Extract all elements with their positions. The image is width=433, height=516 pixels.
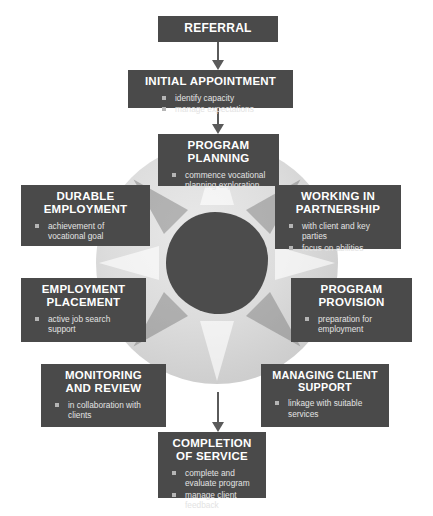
- list-item: active job search support: [35, 314, 138, 335]
- list-item: complete and evaluate program: [172, 468, 258, 489]
- list-item: with client and key parties: [289, 221, 393, 242]
- node-initial-appointment-title: INITIAL APPOINTMENT: [134, 75, 287, 88]
- list-item: linkage with suitable services: [275, 398, 381, 419]
- list-item: manage expectations: [162, 104, 285, 115]
- node-durable-employment[interactable]: DURABLE EMPLOYMENT achievement of vocati…: [21, 185, 150, 246]
- node-employment-placement-bullets: active job search support: [27, 314, 140, 335]
- node-program-provision-bullets: preparation for employment: [297, 314, 406, 335]
- node-program-provision[interactable]: PROGRAM PROVISION preparation for employ…: [291, 278, 412, 342]
- node-completion-of-service-bullets: complete and evaluate program manage cli…: [164, 468, 260, 511]
- node-program-provision-title: PROGRAM PROVISION: [297, 283, 406, 309]
- node-working-in-partnership[interactable]: WORKING IN PARTNERSHIP with client and k…: [275, 185, 401, 249]
- node-program-planning-bullets: commence vocational planning exploration: [164, 170, 273, 191]
- node-durable-employment-bullets: achievement of vocational goal: [27, 221, 144, 242]
- node-program-planning[interactable]: PROGRAM PLANNING commence vocational pla…: [158, 134, 279, 186]
- node-referral[interactable]: REFERRAL: [158, 16, 278, 42]
- node-completion-of-service-title: COMPLETION OF SERVICE: [164, 437, 260, 463]
- node-initial-appointment-bullets: identify capacity manage expectations: [134, 93, 287, 115]
- node-monitoring-and-review-bullets: in collaboration with clients: [47, 400, 160, 421]
- diagram-canvas: REFERRAL INITIAL APPOINTMENT identify ca…: [0, 0, 433, 516]
- list-item: focus on abilities: [289, 243, 393, 254]
- arrow-referral-to-initial-appointment: [217, 42, 219, 61]
- list-item: preparation for employment: [305, 314, 404, 335]
- node-completion-of-service[interactable]: COMPLETION OF SERVICE complete and evalu…: [158, 432, 266, 498]
- node-monitoring-and-review-title: MONITORING AND REVIEW: [47, 369, 160, 395]
- node-monitoring-and-review[interactable]: MONITORING AND REVIEW in collaboration w…: [41, 364, 166, 427]
- list-item: achievement of vocational goal: [35, 221, 142, 242]
- node-employment-placement-title: EMPLOYMENT PLACEMENT: [27, 283, 140, 309]
- node-working-in-partnership-title: WORKING IN PARTNERSHIP: [281, 190, 395, 216]
- node-managing-client-support-title: MANAGING CLIENT SUPPORT: [267, 369, 383, 393]
- list-item: in collaboration with clients: [55, 400, 158, 421]
- list-item: manage client feedback: [172, 490, 258, 511]
- arrow-cycle-to-completion-of-service: [217, 392, 219, 423]
- node-employment-placement[interactable]: EMPLOYMENT PLACEMENT active job search s…: [21, 278, 146, 342]
- node-referral-title: REFERRAL: [184, 22, 251, 35]
- node-working-in-partnership-bullets: with client and key parties focus on abi…: [281, 221, 395, 254]
- cycle-inner-disc: [166, 212, 268, 314]
- list-item: commence vocational planning exploration: [172, 170, 271, 191]
- node-program-planning-title: PROGRAM PLANNING: [164, 139, 273, 165]
- node-managing-client-support[interactable]: MANAGING CLIENT SUPPORT linkage with sui…: [261, 364, 389, 427]
- node-initial-appointment[interactable]: INITIAL APPOINTMENT identify capacity ma…: [128, 70, 293, 108]
- node-managing-client-support-bullets: linkage with suitable services: [267, 398, 383, 419]
- node-durable-employment-title: DURABLE EMPLOYMENT: [27, 190, 144, 216]
- list-item: identify capacity: [162, 93, 285, 104]
